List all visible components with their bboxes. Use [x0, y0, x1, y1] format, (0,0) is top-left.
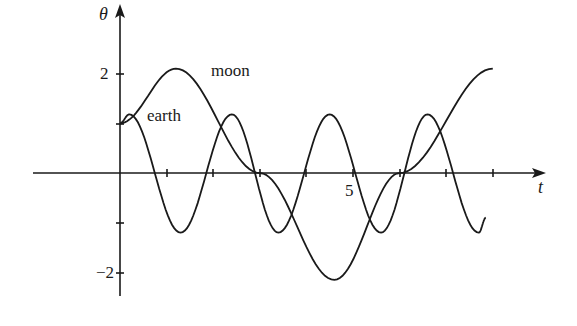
- moon-label: moon: [211, 62, 250, 79]
- y-axis-label: θ: [99, 5, 108, 23]
- earth-label: earth: [147, 107, 181, 124]
- chart-plot: [0, 0, 577, 326]
- y-tick-label-neg2: −2: [96, 264, 114, 281]
- x-axis-label: t: [538, 178, 543, 196]
- x-tick-label-5: 5: [345, 182, 354, 199]
- y-tick-label-2: 2: [100, 65, 109, 82]
